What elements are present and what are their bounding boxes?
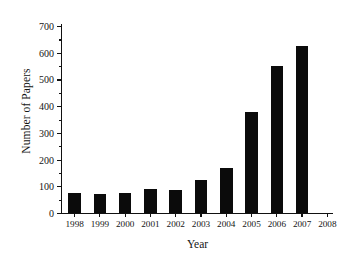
x-tick-label: 2007 [293, 219, 311, 229]
y-tick-label: 400 [39, 101, 54, 112]
x-tick [150, 213, 151, 217]
y-axis-title: Number of Papers [20, 36, 32, 186]
y-tick-major [57, 186, 62, 187]
x-tick-label: 2002 [167, 219, 185, 229]
bar [195, 180, 208, 213]
bar [169, 190, 182, 213]
y-tick-minor [59, 93, 62, 94]
y-tick-major [57, 213, 62, 214]
y-tick-minor [59, 200, 62, 201]
bar [144, 189, 157, 213]
y-tick-major [57, 160, 62, 161]
bar [271, 66, 284, 213]
x-tick-label: 2008 [318, 219, 336, 229]
y-tick-label: 500 [39, 74, 54, 85]
y-tick-major [57, 106, 62, 107]
bar [245, 112, 258, 214]
x-tick [251, 213, 252, 217]
bar [68, 193, 81, 213]
x-tick-label: 2000 [116, 219, 134, 229]
y-tick-minor [59, 39, 62, 40]
x-axis-title: Year [55, 238, 340, 250]
y-tick-minor [59, 146, 62, 147]
x-tick [200, 213, 201, 217]
bar [94, 194, 107, 213]
x-tick [327, 213, 328, 217]
plot-area: 0100200300400500600700 19981999200020012… [62, 26, 340, 213]
bar [220, 168, 233, 213]
x-tick-label: 2004 [217, 219, 235, 229]
y-tick-minor [59, 120, 62, 121]
x-tick-label: 2005 [242, 219, 260, 229]
y-tick-label: 0 [49, 208, 54, 219]
y-tick-minor [59, 173, 62, 174]
y-tick-label: 600 [39, 47, 54, 58]
y-tick-label: 300 [39, 127, 54, 138]
y-tick-label: 200 [39, 154, 54, 165]
bar-chart-figure: Number of Papers 0100200300400500600700 … [0, 0, 346, 261]
x-tick [74, 213, 75, 217]
x-tick-label: 2006 [268, 219, 286, 229]
x-tick-label: 2001 [141, 219, 159, 229]
y-tick-major [57, 26, 62, 27]
x-tick [99, 213, 100, 217]
y-tick-label: 700 [39, 21, 54, 32]
x-tick-label: 2003 [192, 219, 210, 229]
x-tick [175, 213, 176, 217]
x-tick-label: 1998 [65, 219, 83, 229]
x-tick [276, 213, 277, 217]
y-tick-major [57, 79, 62, 80]
x-tick-label: 1999 [91, 219, 109, 229]
x-tick [125, 213, 126, 217]
y-tick-minor [59, 66, 62, 67]
x-tick [301, 213, 302, 217]
x-tick [226, 213, 227, 217]
bar [119, 193, 132, 213]
y-tick-label: 100 [39, 181, 54, 192]
bar [296, 46, 309, 213]
y-tick-major [57, 133, 62, 134]
y-tick-major [57, 53, 62, 54]
